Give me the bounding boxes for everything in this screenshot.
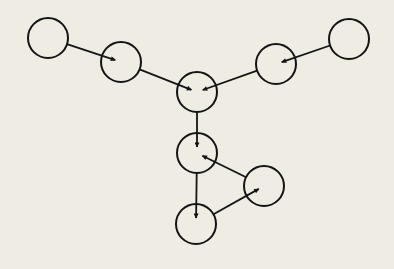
edge-D-to-C: [203, 71, 257, 90]
graph-node-A: [28, 18, 68, 58]
graph-node-B: [101, 42, 141, 82]
edge-B-to-C: [140, 69, 192, 90]
nodes-layer: [28, 18, 369, 244]
edges-layer: [67, 44, 330, 218]
graph-node-D: [256, 44, 296, 84]
directed-graph-diagram: [0, 0, 394, 269]
graph-node-C: [177, 72, 217, 112]
edge-F-to-H: [196, 173, 197, 218]
graph-node-G: [244, 166, 284, 206]
graph-node-E: [329, 19, 369, 59]
edge-G-to-F: [202, 156, 246, 178]
